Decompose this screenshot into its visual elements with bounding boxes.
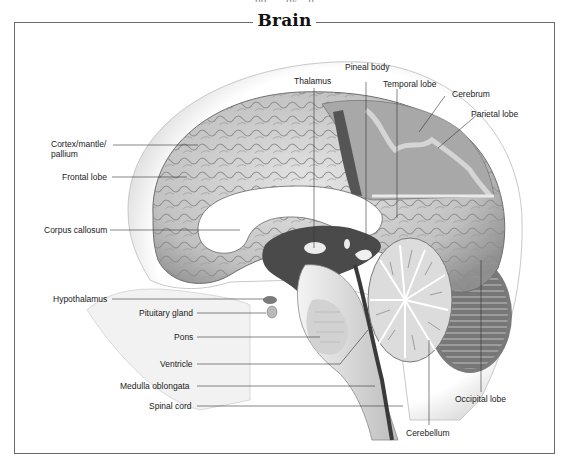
thalamus-mass [304, 242, 326, 254]
label-cortex-line2: pallium [51, 149, 106, 159]
label-cerebrum: Cerebrum [452, 89, 490, 99]
label-thalamus: Thalamus [294, 76, 331, 86]
arbor-vitae [368, 238, 452, 362]
hypothalamus-shape [263, 296, 277, 304]
label-cortex-line1: Cortex/mantle/ [51, 139, 106, 149]
label-ventricle: Ventricle [160, 359, 193, 369]
label-hypothalamus: Hypothalamus [53, 294, 107, 304]
label-cerebellum: Cerebellum [406, 428, 449, 438]
label-pituitary-gland: Pituitary gland [139, 308, 193, 318]
label-medulla-oblongata: Medulla oblongata [120, 381, 189, 391]
label-cortex: Cortex/mantle/ pallium [51, 139, 106, 159]
label-parietal-lobe: Parietal lobe [471, 109, 518, 119]
label-pons: Pons [174, 332, 193, 342]
pituitary-gland-shape [267, 306, 277, 318]
label-spinal-cord: Spinal cord [149, 401, 192, 411]
label-temporal-lobe: Temporal lobe [383, 79, 436, 89]
label-occipital-lobe: Occipital lobe [455, 394, 506, 404]
label-pineal-body: Pineal body [345, 62, 389, 72]
label-corpus-callosum: Corpus callosum [44, 225, 107, 235]
label-frontal-lobe: Frontal lobe [62, 172, 107, 182]
